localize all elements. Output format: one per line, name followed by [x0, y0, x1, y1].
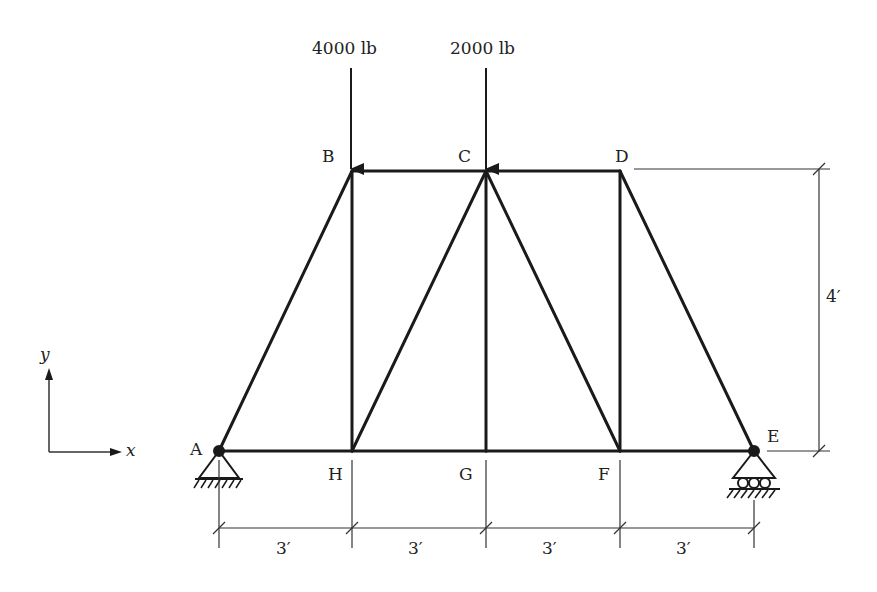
node-label-E: E	[767, 428, 779, 445]
dim-label-HG: 3′	[408, 540, 423, 557]
member-HC	[352, 171, 486, 451]
node-label-A: A	[190, 441, 202, 458]
load-label-B: 4000 lb	[312, 40, 377, 57]
member-CF	[486, 171, 620, 451]
node-label-C: C	[458, 148, 471, 165]
dim-label-FE: 3′	[676, 540, 691, 557]
dim-label-GF: 3′	[542, 540, 557, 557]
y-axis-label: y	[40, 346, 50, 363]
node-label-H: H	[328, 466, 343, 483]
roller-support-E	[727, 445, 780, 498]
truss-members	[219, 171, 754, 451]
node-label-B: B	[322, 148, 335, 165]
vertical-dimension	[634, 163, 830, 457]
x-axis-label: x	[126, 442, 136, 459]
node-label-D: D	[615, 148, 629, 165]
coordinate-axes	[45, 368, 122, 456]
member-DE	[620, 171, 754, 451]
node-label-G: G	[459, 466, 473, 483]
dim-label-AH: 3′	[276, 540, 291, 557]
truss-diagram	[0, 0, 877, 592]
node-label-F: F	[598, 466, 610, 483]
dim-label-height: 4′	[826, 288, 841, 305]
horizontal-dimensions	[213, 460, 760, 548]
member-AB	[219, 171, 352, 451]
load-label-C: 2000 lb	[450, 40, 515, 57]
